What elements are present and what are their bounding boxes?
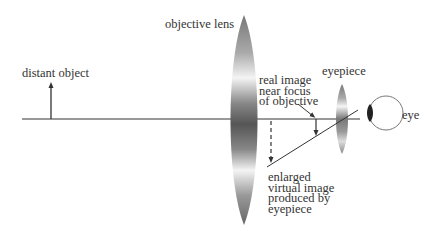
label-virtual-image-line4: eyepiece — [268, 204, 334, 215]
telescope-diagram: distant object objective lens real image… — [0, 0, 438, 238]
objective-lens — [231, 15, 258, 225]
label-objective-lens: objective lens — [165, 18, 234, 30]
diagram-canvas — [0, 0, 438, 238]
label-virtual-image: enlarged virtual image produced by eyepi… — [268, 172, 334, 214]
label-eyepiece: eyepiece — [322, 65, 366, 77]
eyepiece-lens — [336, 84, 348, 154]
label-real-image-line3: of objective — [259, 96, 318, 107]
label-real-image: real image near focus of objective — [259, 75, 318, 107]
label-distant-object: distant object — [22, 67, 89, 79]
label-eye: eye — [402, 109, 419, 121]
pupil — [367, 104, 373, 122]
eye-icon — [369, 96, 403, 130]
